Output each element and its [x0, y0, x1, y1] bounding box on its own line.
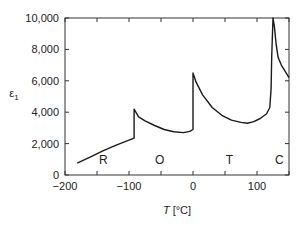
- y-tick-label: 10,000: [25, 12, 59, 24]
- phase-label-c: C: [275, 153, 284, 167]
- y-tick-label: 8,000: [31, 43, 59, 55]
- chart: −200−1000100 02,0004,0006,0008,00010,000…: [0, 0, 300, 228]
- phase-label-o: O: [155, 153, 164, 167]
- x-tick-label: 100: [248, 180, 266, 192]
- permittivity-curve: [77, 18, 289, 163]
- y-tick-label: 2,000: [31, 138, 59, 150]
- y-axis-title: ε1: [9, 87, 19, 102]
- y-tick-label: 6,000: [31, 75, 59, 87]
- phase-label-t: T: [226, 153, 234, 167]
- x-axis-ticks: [65, 18, 289, 175]
- plot-frame: [65, 18, 289, 175]
- x-axis-tick-labels: −200−1000100: [53, 180, 267, 192]
- phase-labels: ROTC: [99, 153, 284, 167]
- y-tick-label: 4,000: [31, 106, 59, 118]
- y-tick-label: 0: [53, 169, 59, 181]
- y-axis-ticks: [65, 18, 289, 175]
- x-tick-label: −100: [117, 180, 142, 192]
- x-axis-title: T [°C]: [163, 204, 191, 216]
- y-axis-tick-labels: 02,0004,0006,0008,00010,000: [25, 12, 59, 181]
- x-tick-label: 0: [190, 180, 196, 192]
- x-tick-label: −200: [53, 180, 78, 192]
- phase-label-r: R: [99, 153, 108, 167]
- plot-border: [65, 18, 289, 175]
